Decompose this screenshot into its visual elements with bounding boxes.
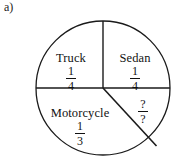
slice-fraction-motorcycle: 1 3 [75,120,85,147]
slice-label-sedan: Sedan 1 4 [106,51,164,92]
slice-label-unknown: ? ? [132,98,154,125]
slice-label-truck: Truck 1 4 [42,51,100,92]
slice-name-truck: Truck [42,51,100,65]
fraction-denominator: ? [138,113,147,125]
slice-fraction-unknown: ? ? [138,98,147,125]
slice-fraction-truck: 1 4 [66,65,76,92]
fraction-numerator: 1 [75,120,85,132]
slice-name-sedan: Sedan [106,51,164,65]
fraction-numerator: 1 [66,65,76,77]
fraction-denominator: 4 [66,80,76,92]
pie-chart-figure: a) Truck 1 4 Sedan 1 4 Motorcycle 1 3 [0,0,173,159]
slice-label-motorcycle: Motorcycle 1 3 [38,106,122,147]
slice-name-motorcycle: Motorcycle [38,106,122,120]
fraction-denominator: 3 [75,135,85,147]
slice-fraction-sedan: 1 4 [130,65,140,92]
fraction-numerator: 1 [130,65,140,77]
fraction-numerator: ? [138,98,147,110]
fraction-denominator: 4 [130,80,140,92]
